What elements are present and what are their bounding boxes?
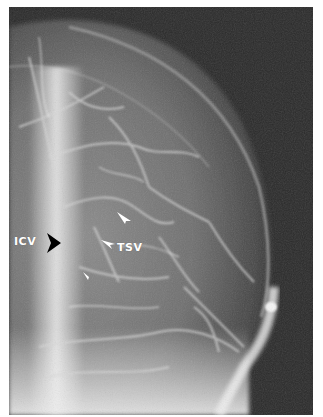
black-arrow-icon bbox=[47, 231, 61, 255]
angiogram-image: ICV TSV bbox=[9, 7, 313, 415]
white-arrowhead-icon bbox=[101, 239, 115, 249]
tsv-label: TSV bbox=[117, 242, 142, 253]
icv-label: ICV bbox=[14, 236, 36, 247]
radiograph-background bbox=[9, 7, 313, 415]
white-arrowhead-icon bbox=[117, 212, 131, 224]
white-arrowhead-icon bbox=[83, 272, 93, 288]
